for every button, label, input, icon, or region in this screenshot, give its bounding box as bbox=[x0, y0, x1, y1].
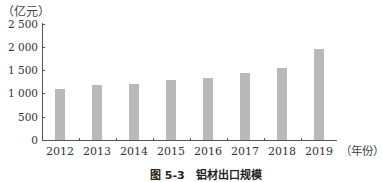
y-tick-label: 0 bbox=[2, 134, 38, 146]
y-tick-label: 2 000 bbox=[2, 41, 38, 53]
bar-2015 bbox=[166, 80, 176, 140]
x-tick bbox=[301, 138, 302, 141]
y-tick-label: 2 500 bbox=[2, 18, 38, 30]
y-tick bbox=[42, 93, 45, 94]
x-tick-label: 2017 bbox=[227, 145, 263, 158]
y-tick bbox=[42, 70, 45, 71]
x-tick-label: 2018 bbox=[264, 145, 300, 158]
x-tick bbox=[264, 138, 265, 141]
bar-2016 bbox=[203, 78, 213, 140]
y-tick bbox=[42, 47, 45, 48]
bar-2018 bbox=[277, 68, 287, 140]
x-tick-label: 2015 bbox=[153, 145, 189, 158]
y-axis bbox=[42, 23, 43, 141]
y-tick-label: 1 000 bbox=[2, 87, 38, 99]
x-tick bbox=[153, 138, 154, 141]
x-tick-label: 2014 bbox=[116, 145, 152, 158]
y-tick-label: 500 bbox=[2, 111, 38, 123]
y-tick-label: 1 500 bbox=[2, 64, 38, 76]
x-tick bbox=[227, 138, 228, 141]
x-tick bbox=[116, 138, 117, 141]
x-tick-label: 2013 bbox=[79, 145, 115, 158]
x-tick bbox=[79, 138, 80, 141]
y-tick bbox=[42, 117, 45, 118]
figure-caption: 图 5-3 铝材出口规模 bbox=[150, 169, 262, 182]
bar-2017 bbox=[240, 73, 250, 140]
y-tick bbox=[42, 24, 45, 25]
x-axis-unit-label: （年份） bbox=[340, 145, 382, 158]
y-axis-unit-label: （亿元） bbox=[2, 2, 50, 19]
bar-2012 bbox=[55, 89, 65, 140]
x-tick-label: 2016 bbox=[190, 145, 226, 158]
x-tick-label: 2019 bbox=[301, 145, 337, 158]
bar-2014 bbox=[129, 84, 139, 140]
x-tick-label: 2012 bbox=[42, 145, 78, 158]
bar-2013 bbox=[92, 85, 102, 140]
x-tick bbox=[190, 138, 191, 141]
bar-2019 bbox=[314, 49, 324, 140]
